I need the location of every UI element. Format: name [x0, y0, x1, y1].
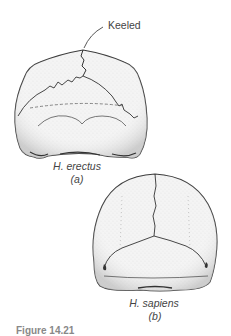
keeled-annotation: Keeled	[108, 19, 141, 31]
figure-caption-partial: Figure 14.21	[16, 325, 74, 336]
keeled-pointer-line	[84, 27, 103, 48]
panel-a-species-label: H. erectus	[53, 160, 101, 172]
skull-h-sapiens	[93, 174, 217, 291]
panel-b-species-label: H. sapiens	[129, 297, 179, 309]
skull-h-erectus	[15, 50, 147, 158]
panel-a-letter: (a)	[71, 173, 84, 185]
panel-b-letter: (b)	[149, 310, 162, 322]
